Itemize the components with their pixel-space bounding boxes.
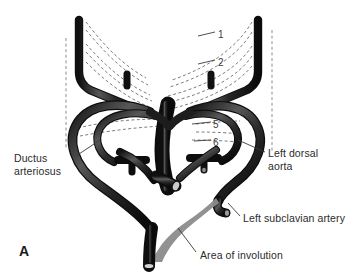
label-ductus-arteriosus: Ductus arteriosus: [14, 152, 61, 177]
figure-panel: Ductus arteriosus Left dorsal aorta Left…: [0, 0, 361, 279]
left-subclavian-artery-vessel: [217, 200, 229, 216]
leader-area-of-involution: [178, 228, 196, 252]
arch-number-1: 1: [218, 29, 224, 40]
label-left-dorsal-aorta: Left dorsal aorta: [268, 147, 318, 172]
panel-letter: A: [19, 243, 29, 259]
aortic-arch-diagram: [0, 0, 361, 279]
arch-number-2: 2: [218, 57, 224, 68]
left-carotid-vessel: [79, 20, 146, 113]
arch-number-6: 6: [213, 137, 219, 148]
label-left-subclavian-artery: Left subclavian artery: [243, 212, 345, 225]
leader-num-6: [194, 140, 211, 141]
label-area-of-involution: Area of involution: [200, 249, 283, 262]
arch-number-5: 5: [213, 119, 219, 130]
leader-num-1: [198, 32, 215, 36]
leader-num-2: [198, 60, 215, 64]
descending-aorta-vessel: [144, 228, 154, 269]
